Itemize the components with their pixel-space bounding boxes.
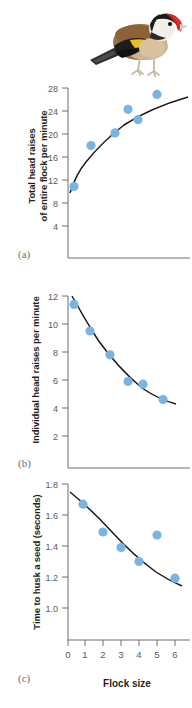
ytick-b-8: 8 [53,348,58,358]
european-goldfinch-photo [88,2,188,82]
ytick-c-1.0: 1.0 [45,604,58,614]
ytick-a-24: 24 [48,107,58,117]
data-points-a [69,90,161,191]
ytick-b-2: 2 [53,432,58,442]
xtick-5: 5 [154,649,159,660]
panel-b-ylabel: Individual head raises per minute [30,282,41,458]
xtick-3: 3 [118,649,123,660]
ytick-c-1.6: 1.6 [45,511,58,521]
ytick-b-4: 4 [53,404,58,414]
panel-b: 12 10 8 6 4 2 [0,292,192,474]
xtick-2: 2 [100,649,105,660]
ytick-a-28: 28 [48,84,58,94]
xtick-1: 1 [82,649,87,660]
panel-letter-a: (a) [18,248,30,260]
figure-flock-size-panels: 28 24 20 16 12 8 4 Total head raises of … [0,0,192,708]
data-points-b [69,300,167,404]
ytick-a-20: 20 [48,130,58,140]
ytick-c-1.8: 1.8 [45,480,58,490]
ytick-a-8: 8 [53,199,58,209]
panel-c: 1.8 1.6 1.4 1.2 1.0 0 1 2 3 4 5 6 [0,478,192,678]
xtick-6: 6 [172,649,177,660]
ytick-c-1.2: 1.2 [45,573,58,583]
x-axis-label: Flock size [68,678,186,689]
ytick-a-4: 4 [53,222,58,232]
ytick-a-12: 12 [48,176,58,186]
panel-letter-b: (b) [18,457,31,469]
fit-curve-b [72,296,176,404]
ytick-a-16: 16 [48,153,58,163]
panel-letter-c: (c) [18,672,30,684]
xtick-0: 0 [65,649,70,660]
ytick-b-12: 12 [48,292,58,302]
panel-a-ylabel-line1: Total head raises [26,82,37,250]
xtick-4: 4 [136,649,141,660]
ytick-b-10: 10 [48,320,58,330]
ytick-c-1.4: 1.4 [45,542,58,552]
ytick-b-6: 6 [53,376,58,386]
panel-a-ylabel-line2: of entire flock per minute [38,82,49,250]
panel-c-ylabel: Time to husk a seed (seconds) [31,476,42,648]
